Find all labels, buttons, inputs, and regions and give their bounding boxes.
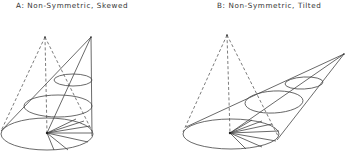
dashed-apex-point: [44, 36, 46, 38]
dashed-apex-point: [226, 34, 228, 36]
dashed-cone-left-edge: [1, 37, 45, 131]
base-ray: [230, 133, 262, 147]
base-ray: [47, 121, 84, 133]
middle-cross-section: [244, 89, 303, 114]
base-center-point: [46, 132, 48, 134]
panel-a-diagram: [1, 36, 93, 150]
solid-apex-point: [90, 36, 92, 38]
dashed-cone-axis: [227, 35, 230, 133]
middle-cross-section: [24, 95, 92, 117]
tilted-cone-axis: [230, 54, 344, 133]
base-center-point: [229, 132, 231, 134]
tilted-cone-upper-edge: [186, 54, 344, 127]
skewed-cone-right-edge: [91, 37, 92, 136]
skewed-cone-left-edge: [1, 37, 91, 131]
tilted-cone-lower-edge: [277, 54, 344, 140]
panel-b-diagram: [183, 34, 345, 149]
dashed-cone-left-edge: [183, 35, 227, 132]
cone-diagrams: [0, 0, 345, 157]
